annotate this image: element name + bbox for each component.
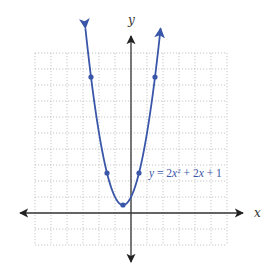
- equation-label: y = 2x2 + 2x + 1: [148, 167, 222, 180]
- data-point: [136, 170, 141, 175]
- data-point: [88, 74, 93, 79]
- data-point: [120, 202, 125, 207]
- x-axis-label: x: [254, 206, 261, 220]
- data-point: [104, 170, 109, 175]
- parabola-chart: x y y = 2x2 + 2x + 1: [0, 0, 271, 278]
- data-point: [152, 74, 157, 79]
- y-axis-label: y: [127, 13, 135, 27]
